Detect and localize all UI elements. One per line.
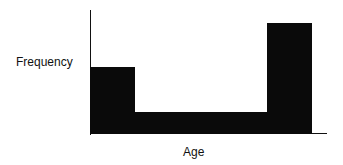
- bar-old: [267, 23, 312, 134]
- bar-middle: [135, 112, 267, 134]
- y-axis-label: Frequency: [16, 55, 73, 69]
- x-axis-label: Age: [183, 145, 204, 159]
- bar-young: [90, 67, 135, 134]
